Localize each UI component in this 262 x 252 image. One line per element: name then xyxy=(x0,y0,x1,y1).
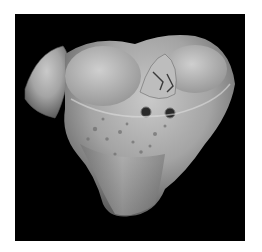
drill-hole xyxy=(141,107,151,117)
bone-rendering xyxy=(15,14,245,241)
medial-plateau xyxy=(65,46,141,106)
drill-hole xyxy=(165,108,175,118)
image-panel xyxy=(15,14,245,241)
fibular-head xyxy=(25,46,68,118)
